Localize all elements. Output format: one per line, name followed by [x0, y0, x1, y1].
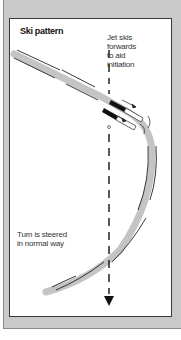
annotation-jet-skis: Jet skis forwards to aid initiation	[107, 33, 136, 69]
annotation-line: to aid	[107, 51, 136, 60]
annotation-line: in normal way	[17, 239, 67, 248]
annotation-line: initiation	[107, 60, 136, 69]
annotation-line: Jet skis	[107, 33, 136, 42]
ski-pattern-diagram	[0, 0, 181, 340]
fall-line-origin	[108, 126, 111, 129]
annotation-line: forwards	[107, 42, 136, 51]
annotation-turn-steered: Turn is steered in normal way	[17, 230, 67, 248]
annotation-line: Turn is steered	[17, 230, 67, 239]
ski-track	[14, 54, 152, 292]
arrow-down-icon	[104, 296, 114, 306]
